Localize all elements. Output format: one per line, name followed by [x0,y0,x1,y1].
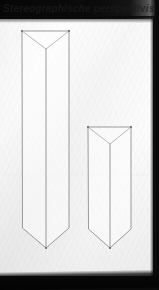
photo-border-top-shadow [0,16,159,23]
photo-border-bottom [0,270,159,290]
short-prism-corner-top-right [130,126,132,128]
tall-prism-corner-top-right [68,30,70,32]
tall-prism-right-face [46,31,69,248]
short-prism-left-face [88,127,110,248]
prism-drawing [0,0,159,290]
tall-prism [21,30,70,249]
short-prism [87,126,132,249]
short-prism-corner-top-left [87,126,89,128]
screenshot-canvas: Stereographische perspektivische Prismen… [0,0,159,290]
tall-prism-left-face [22,31,46,248]
photo-border-right [150,0,159,290]
tall-prism-corner-top-left [21,30,23,32]
short-prism-corner-bottom-apex [109,247,111,249]
short-prism-right-face [110,127,131,248]
tall-prism-corner-bottom-apex [45,247,47,249]
